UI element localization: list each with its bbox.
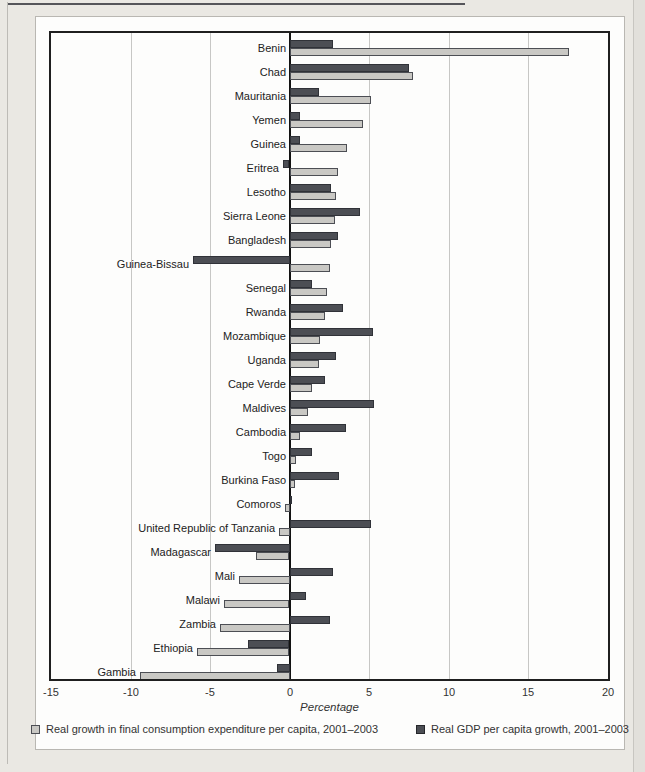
country-label: Uganda [247,352,286,369]
x-tick-10: 10 [429,686,469,698]
legend-label-gdp: Real GDP per capita growth, 2001–2003 [431,723,629,735]
gridline-10 [449,33,450,681]
country-label: Senegal [246,280,286,297]
country-label: Lesotho [247,184,286,201]
page-right-edge [633,0,645,772]
gdp-bar [290,184,331,192]
gdp-bar [290,88,319,96]
consumption-bar [290,360,319,368]
consumption-bar [279,528,290,536]
gdp-bar [290,568,333,576]
gdp-bar [215,544,290,552]
gridline-15 [528,33,529,681]
x-tick-20: 20 [588,686,628,698]
gdp-bar [248,640,289,648]
consumption-bar [290,72,413,80]
consumption-bar [290,432,300,440]
consumption-bar [285,504,290,512]
consumption-bar [224,600,289,608]
consumption-bar [256,552,289,560]
consumption-bar [290,288,327,296]
country-label: Madagascar [150,544,211,561]
gdp-bar [290,40,333,48]
consumption-bar [239,576,290,584]
consumption-bar [290,168,338,176]
x-tick--5: -5 [190,686,230,698]
gdp-bar [290,232,338,240]
consumption-bar [290,96,371,104]
country-label: Comoros [236,496,281,513]
gridline-5 [369,33,370,681]
legend-item-consumption: Real growth in final consumption expendi… [31,723,378,735]
x-tick-15: 15 [508,686,548,698]
consumption-bar [290,384,312,392]
gdp-bar [290,520,371,528]
gdp-bar [290,448,312,456]
x-tick-0: 0 [270,686,310,698]
consumption-bar [290,240,331,248]
x-tick--15: -15 [31,686,71,698]
x-tick--10: -10 [111,686,151,698]
country-label: Bangladesh [228,232,286,249]
gridline--10 [131,33,132,681]
country-label: Gambia [97,664,136,681]
country-label: Yemen [252,112,286,129]
consumption-bar [290,144,347,152]
gdp-bar [290,208,360,216]
country-label: Guinea [251,136,286,153]
country-label: Zambia [179,616,216,633]
gdp-bar [290,136,300,144]
legend-label-consumption: Real growth in final consumption expendi… [46,723,378,735]
page-top-rule [8,3,465,5]
gdp-bar [290,616,330,624]
consumption-bar [290,48,569,56]
country-label: Mauritania [235,88,286,105]
country-label: United Republic of Tanzania [138,520,275,537]
x-axis-label: Percentage [51,701,608,713]
consumption-bar [220,624,290,632]
country-label: Benin [258,40,286,57]
gdp-swatch-icon [416,725,425,734]
gdp-bar [290,592,306,600]
gdp-bar [290,424,346,432]
consumption-swatch-icon [31,725,40,734]
country-label: Chad [260,64,286,81]
consumption-bar [290,192,336,200]
gdp-bar [290,328,373,336]
gdp-bar [290,472,339,480]
country-label: Rwanda [246,304,286,321]
country-label: Ethiopia [153,640,193,657]
gdp-bar [290,64,409,72]
gdp-bar [290,352,336,360]
consumption-bar [290,264,330,272]
country-label: Malawi [186,592,220,609]
legend-item-gdp: Real GDP per capita growth, 2001–2003 [416,723,629,735]
legend: Real growth in final consumption expendi… [36,723,624,735]
gdp-bar [290,376,325,384]
gdp-bar [290,496,292,504]
gdp-bar [193,256,290,264]
country-label: Guinea-Bissau [117,256,189,273]
gdp-bar [290,304,343,312]
gdp-bar [290,400,374,408]
gdp-bar [290,280,312,288]
consumption-bar [290,336,320,344]
x-tick-5: 5 [349,686,389,698]
country-label: Cape Verde [228,376,286,393]
chart-card: BeninChadMauritaniaYemenGuineaEritreaLes… [35,16,625,750]
consumption-bar [290,120,363,128]
country-label: Mali [215,568,235,585]
gdp-bar [283,160,289,168]
consumption-bar [290,480,295,488]
consumption-bar [290,456,296,464]
consumption-bar [290,408,308,416]
consumption-bar [290,312,325,320]
country-label: Mozambique [223,328,286,345]
country-label: Burkina Faso [221,472,286,489]
gdp-bar [277,664,290,672]
country-label: Maldives [243,400,286,417]
gridline--5 [210,33,211,681]
consumption-bar [290,216,335,224]
country-label: Cambodia [236,424,286,441]
gdp-bar [290,112,300,120]
